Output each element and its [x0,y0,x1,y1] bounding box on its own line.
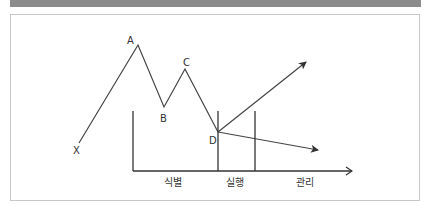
price-path-line [79,45,218,143]
upward-arrow [218,62,306,132]
point-label-x: X [73,145,80,156]
point-label-b: B [160,113,167,124]
point-label-c: C [183,57,190,68]
phase-label-identify: 식별 [164,177,182,188]
xabcd-pattern-diagram: X A B C D 식별 실행 관리 [0,0,430,215]
phase-label-execute: 실행 [226,177,244,188]
point-label-d: D [209,135,217,146]
point-label-a: A [127,35,134,46]
phase-label-manage: 관리 [296,177,314,188]
downward-arrow [218,132,318,150]
